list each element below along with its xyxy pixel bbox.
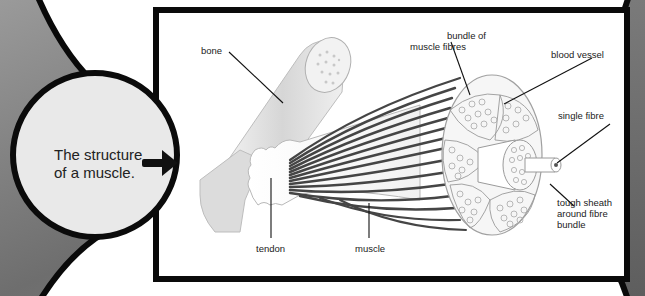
label-tendon: tendon [256,243,285,254]
arrow-right-icon [140,148,180,178]
caption-text: The structure of a muscle. [54,146,154,182]
label-single-fibre: single fibre [558,110,604,121]
label-sheath-line1: tough sheath [557,197,612,208]
caption-line-1: The structure [54,146,154,164]
label-bundle-line1: bundle of [424,30,486,41]
label-bundle-line2: muscle fibres [410,41,466,52]
label-blood-vessel: blood vessel [551,49,604,60]
label-bone: bone [201,45,222,56]
label-sheath-line2: around fibre [557,208,608,219]
muscle-cross-section [442,75,561,235]
label-sheath-line3: bundle [557,219,586,230]
label-muscle: muscle [355,243,385,254]
muscle-structure-figure: bone bundle of muscle fibres blood vesse… [0,0,645,296]
caption-line-2: of a muscle. [54,164,154,182]
